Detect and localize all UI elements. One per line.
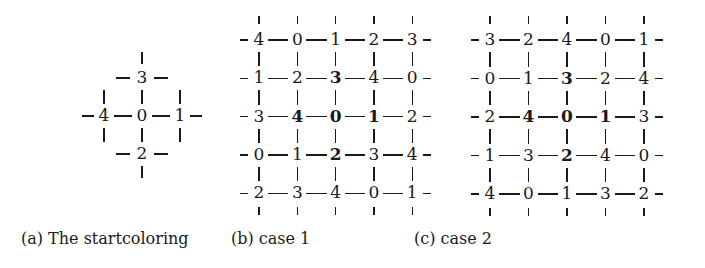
grid-edge [297, 52, 298, 66]
grid-edge [499, 193, 520, 194]
grid-edge [345, 116, 365, 117]
grid-edge [258, 52, 259, 66]
grid-edge [258, 129, 259, 143]
edge [190, 115, 202, 116]
grid-cell-value: 3 [560, 68, 574, 88]
grid-cell-value: 4 [560, 29, 574, 49]
grid-cell-value: 4 [329, 182, 343, 202]
grid-cell-value: 4 [252, 29, 266, 49]
grid-stub-right [423, 78, 431, 79]
grid-cell-value: 2 [329, 144, 343, 164]
grid-edge [528, 168, 529, 183]
edge [141, 52, 142, 64]
grid-edge [566, 168, 567, 183]
edge [179, 90, 180, 104]
grid-edge [373, 90, 374, 104]
edge [141, 166, 142, 178]
grid-cell-value: 3 [637, 106, 651, 126]
grid-edge [268, 193, 288, 194]
grid-cell-value: 0 [329, 106, 343, 126]
grid-cell-value: 2 [252, 182, 266, 202]
grid-stub-left [240, 78, 248, 79]
grid-stub-left [471, 116, 479, 117]
grid-edge [528, 91, 529, 106]
grid-edge [335, 90, 336, 104]
grid-cell-value: 0 [637, 145, 651, 165]
grid-edge [306, 116, 326, 117]
grid-cell-value: 0 [599, 29, 613, 49]
grid-stub-bottom [412, 207, 413, 215]
grid-edge [335, 129, 336, 143]
center-value: 0 [135, 105, 149, 125]
grid-edge [538, 193, 559, 194]
grid-cell-value: 1 [252, 67, 266, 87]
grid-edge [306, 193, 326, 194]
grid-cell-value: 0 [560, 106, 574, 126]
grid-edge [383, 78, 403, 79]
grid-stub-right [423, 39, 431, 40]
grid-cell-value: 1 [560, 183, 574, 203]
grid-edge [576, 116, 597, 117]
grid-edge [373, 129, 374, 143]
grid-stub-left [471, 193, 479, 194]
grid-edge [643, 168, 644, 183]
edge [152, 115, 170, 116]
grid-stub-right [423, 154, 431, 155]
grid-edge [258, 90, 259, 104]
grid-edge [605, 168, 606, 183]
grid-stub-top [566, 16, 567, 24]
grid-stub-left [240, 193, 248, 194]
grid-cell-value: 0 [405, 67, 419, 87]
edge [154, 153, 168, 154]
grid-edge [576, 39, 597, 40]
grid-stub-top [528, 16, 529, 24]
grid-cell-value: 0 [252, 144, 266, 164]
caption-b: (b) case 1 [231, 229, 310, 249]
grid-stub-right [655, 39, 663, 40]
grid-stub-right [423, 116, 431, 117]
grid-edge [499, 39, 520, 40]
grid-cell-value: 3 [522, 145, 536, 165]
grid-edge [605, 91, 606, 106]
grid-edge [412, 90, 413, 104]
grid-cell-value: 2 [522, 29, 536, 49]
grid-stub-left [471, 155, 479, 156]
grid-cell-value: 2 [483, 106, 497, 126]
grid-edge [538, 155, 559, 156]
grid-stub-bottom [297, 207, 298, 215]
grid-edge [566, 52, 567, 67]
grid-cell-value: 4 [405, 144, 419, 164]
grid-cell-value: 2 [637, 183, 651, 203]
grid-edge [643, 91, 644, 106]
top-value: 3 [135, 67, 149, 87]
grid-edge [499, 155, 520, 156]
grid-stub-bottom [335, 207, 336, 215]
grid-cell-value: 1 [483, 145, 497, 165]
grid-stub-top [412, 16, 413, 24]
grid-edge [306, 39, 326, 40]
grid-cell-value: 1 [367, 106, 381, 126]
grid-edge [643, 129, 644, 144]
grid-stub-right [423, 193, 431, 194]
grid-stub-left [240, 154, 248, 155]
grid-stub-top [373, 16, 374, 24]
grid-edge [489, 168, 490, 183]
grid-cell-value: 3 [599, 183, 613, 203]
grid-cell-value: 2 [560, 145, 574, 165]
grid-edge [615, 39, 636, 40]
edge [141, 90, 142, 104]
grid-cell-value: 3 [329, 67, 343, 87]
grid-cell-value: 4 [483, 183, 497, 203]
grid-edge [268, 39, 288, 40]
grid-edge [268, 78, 288, 79]
grid-stub-right [655, 116, 663, 117]
grid-cell-value: 3 [252, 106, 266, 126]
grid-edge [615, 193, 636, 194]
edge [141, 128, 142, 142]
grid-stub-top [297, 16, 298, 24]
grid-stub-top [605, 16, 606, 24]
edge [116, 153, 130, 154]
grid-cell-value: 4 [367, 67, 381, 87]
grid-edge [499, 78, 520, 79]
grid-stub-bottom [566, 208, 567, 216]
